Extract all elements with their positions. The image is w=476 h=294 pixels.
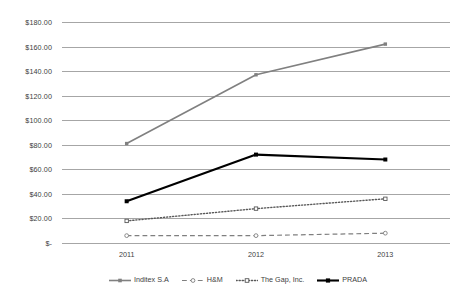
x-axis-tick-label: 2012 [248,250,264,259]
y-axis-tick-label: $160.00 [25,42,52,51]
y-axis-tick-label: $100.00 [25,116,52,125]
line-chart: $180.00$160.00$140.00$120.00$100.00$80.0… [0,0,476,294]
line-solid-gray-marker-icon [109,276,131,285]
chart-legend: Inditex S.AH&MThe Gap, Inc.PRADA [0,272,476,288]
y-axis-tick-label: $40.00 [29,189,52,198]
data-point [125,199,129,203]
series-h-m [125,231,387,237]
data-point [254,73,257,76]
series-layer [62,22,450,243]
data-point [384,42,387,45]
data-point [383,231,387,235]
y-axis: $180.00$160.00$140.00$120.00$100.00$80.0… [0,22,58,243]
legend-label: Inditex S.A [134,276,169,283]
legend-label: H&M [207,276,223,283]
y-axis-tick-label: $60.00 [29,165,52,174]
data-point [125,234,129,238]
line-solid-black-marker-icon [317,276,339,285]
line-dotted-gray-marker-icon [236,276,258,285]
plot-area [62,22,450,243]
data-point [125,142,128,145]
series-inditex-s-a [125,42,387,145]
y-axis-tick-label: $80.00 [29,140,52,149]
data-point [254,153,258,157]
x-axis-tick-label: 2013 [377,250,393,259]
data-point [254,207,257,210]
y-axis-tick-label: $140.00 [25,67,52,76]
series-the-gap-inc [125,197,387,222]
line-dashed-gray-marker-icon [182,276,204,285]
y-axis-tick-label: $120.00 [25,91,52,100]
series-prada [125,153,388,204]
x-axis-tick-label: 2011 [119,250,134,259]
legend-item[interactable]: H&M [182,276,223,285]
series-line [127,44,386,143]
data-point [125,219,128,222]
x-axis: 201120122013 [62,250,450,264]
y-axis-tick-label: $20.00 [29,214,52,223]
data-point [383,158,387,162]
gridline [62,243,450,244]
series-line [127,155,386,202]
y-axis-tick-label: $- [45,239,52,248]
legend-label: PRADA [342,276,367,283]
legend-item[interactable]: PRADA [317,276,367,285]
data-point [254,234,258,238]
legend-item[interactable]: Inditex S.A [109,276,169,285]
legend-label: The Gap, Inc. [261,276,305,283]
legend-item[interactable]: The Gap, Inc. [236,276,305,285]
y-axis-tick-label: $180.00 [25,18,52,27]
data-point [384,197,387,200]
